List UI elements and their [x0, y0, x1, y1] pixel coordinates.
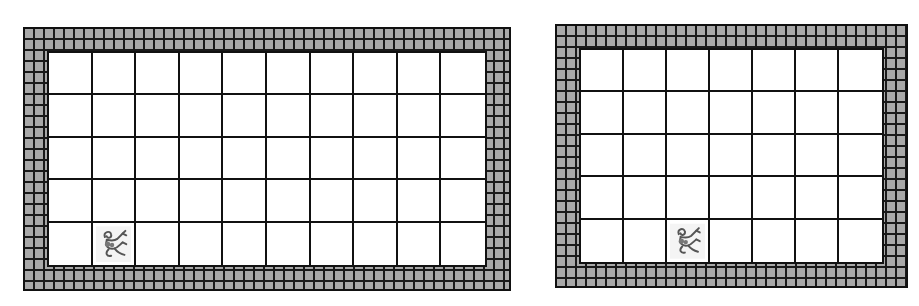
grid-cell	[667, 220, 710, 262]
grid-cell	[49, 95, 93, 137]
grid-cell	[441, 223, 485, 265]
wall-cell	[223, 223, 267, 265]
grid-cell	[49, 223, 93, 265]
grid-cell	[180, 138, 224, 180]
grid-cell	[753, 92, 796, 134]
wall-cell	[354, 180, 398, 222]
grid-floor	[47, 51, 487, 267]
grid-cell	[354, 53, 398, 95]
wall-cell	[354, 223, 398, 265]
grid-cell	[581, 220, 624, 262]
grid-cell	[93, 138, 137, 180]
creature-icon	[670, 223, 705, 259]
grid-cell	[398, 138, 442, 180]
wall-cell	[311, 223, 355, 265]
grid-cell	[796, 177, 839, 219]
grid-cell	[180, 95, 224, 137]
grid-cell	[753, 50, 796, 92]
grid-cell	[581, 50, 624, 92]
left-world	[23, 27, 511, 291]
grid-cell	[710, 92, 753, 134]
grid-cell	[796, 135, 839, 177]
wall-cell	[398, 223, 442, 265]
wall-cell	[267, 223, 311, 265]
grid-cell	[710, 177, 753, 219]
grid-cell	[93, 180, 137, 222]
grid-cell	[311, 95, 355, 137]
grid-cell	[136, 95, 180, 137]
grid-cell	[311, 53, 355, 95]
wall-cell	[710, 220, 753, 262]
grid-cell	[136, 53, 180, 95]
wall-cell	[753, 220, 796, 262]
wall-cell	[753, 177, 796, 219]
grid-cell	[223, 95, 267, 137]
grid-cell	[441, 95, 485, 137]
grid-floor	[579, 48, 884, 264]
grid-cell	[839, 135, 882, 177]
grid-cell	[624, 177, 667, 219]
grid-cell	[441, 138, 485, 180]
grid-cell	[624, 50, 667, 92]
grid-cell	[441, 53, 485, 95]
right-world	[555, 24, 908, 288]
grid-cell	[624, 92, 667, 134]
grid-cell	[839, 220, 882, 262]
grid-cell	[839, 92, 882, 134]
grid-cell	[398, 53, 442, 95]
grid-cell	[180, 53, 224, 95]
wall-cell	[267, 95, 311, 137]
grid-cell	[49, 53, 93, 95]
grid-cell	[136, 138, 180, 180]
grid-cell	[581, 92, 624, 134]
wall-cell	[180, 180, 224, 222]
grid-cell	[839, 50, 882, 92]
grid-cell	[223, 53, 267, 95]
wall-cell	[311, 138, 355, 180]
grid-cell	[624, 220, 667, 262]
grid-cell	[710, 50, 753, 92]
wall-cell	[267, 180, 311, 222]
wall-cell	[180, 223, 224, 265]
grid-cell	[267, 53, 311, 95]
wall-cell	[223, 138, 267, 180]
grid-cell	[667, 135, 710, 177]
grid-cell	[354, 95, 398, 137]
wall-cell	[223, 180, 267, 222]
grid-cell	[796, 92, 839, 134]
grid-cell	[710, 135, 753, 177]
grid-cell	[354, 138, 398, 180]
grid-cell	[136, 180, 180, 222]
wall-cell	[136, 223, 180, 265]
grid-cell	[581, 177, 624, 219]
grid-cell	[839, 177, 882, 219]
wall-cell	[267, 138, 311, 180]
grid-cell	[398, 180, 442, 222]
grid-cell	[398, 95, 442, 137]
grid-cell	[93, 223, 137, 265]
grid-cell	[49, 180, 93, 222]
grid-cell	[667, 177, 710, 219]
creature-icon	[96, 226, 132, 262]
grid-cell	[796, 50, 839, 92]
grid-cell	[93, 53, 137, 95]
grid-cell	[753, 135, 796, 177]
grid-cell	[441, 180, 485, 222]
wall-cell	[796, 220, 839, 262]
grid-cell	[49, 138, 93, 180]
grid-cell	[93, 95, 137, 137]
grid-cell	[624, 135, 667, 177]
grid-cell	[581, 135, 624, 177]
wall-cell	[311, 180, 355, 222]
grid-cell	[667, 92, 710, 134]
grid-cell	[667, 50, 710, 92]
